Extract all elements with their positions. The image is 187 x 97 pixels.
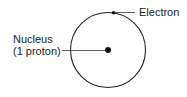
electron-label: Electron [139,6,179,18]
nucleus-label: Nucleus [13,33,53,45]
atom-diagram: Electron Nucleus (1 proton) [0,0,187,97]
electron-dot [112,11,116,15]
nucleus-sublabel: (1 proton) [13,45,61,57]
nucleus-dot [105,47,111,53]
